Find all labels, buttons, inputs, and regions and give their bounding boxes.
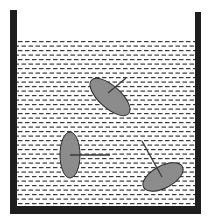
- container-left-wall: [10, 10, 17, 214]
- liquid-container-diagram: [0, 0, 209, 222]
- container-right-wall: [195, 12, 201, 214]
- container-bottom-wall: [10, 206, 201, 214]
